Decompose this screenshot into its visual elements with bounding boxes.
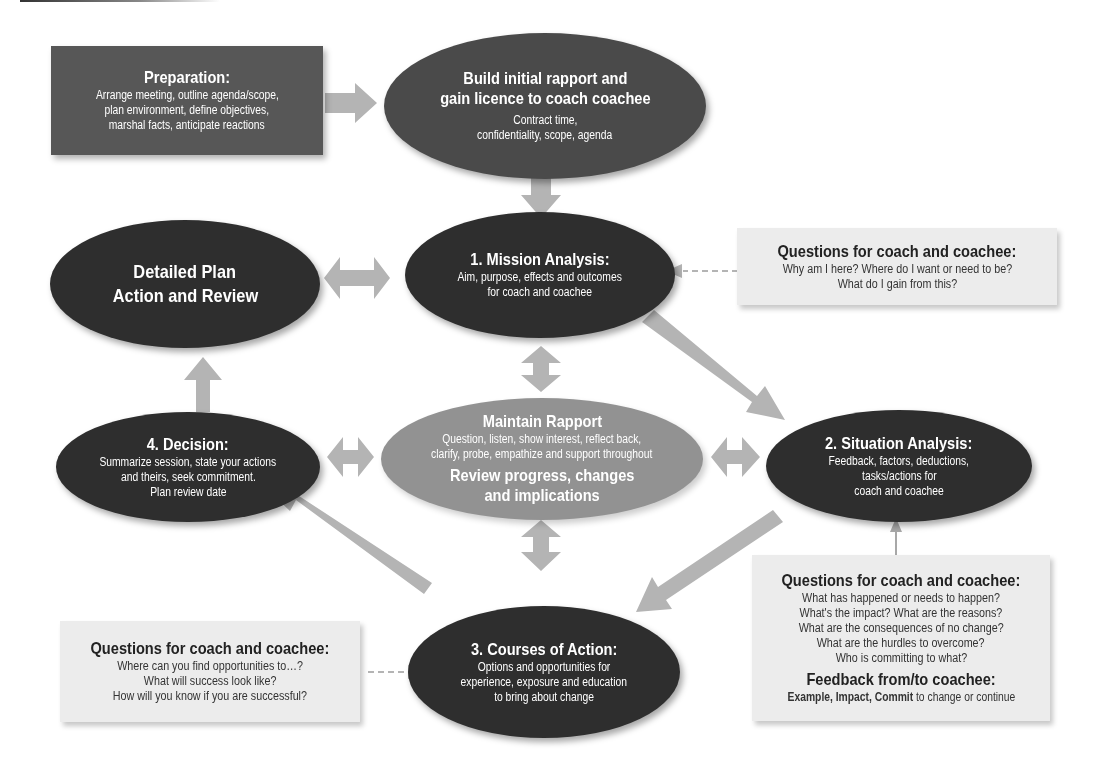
decision-line: Plan review date: [150, 485, 226, 500]
arrow-prep-to-rapport: [325, 83, 377, 123]
build-rapport-line: confidentiality, scope, agenda: [477, 128, 612, 143]
arrow-decision-center: [327, 437, 374, 477]
questions-courses-box: Questions for coach and coachee: Where c…: [60, 621, 360, 722]
courses-of-action-title: 3. Courses of Action:: [471, 640, 617, 660]
situation-analysis-line: coach and coachee: [854, 484, 944, 499]
preparation-title: Preparation:: [144, 68, 230, 88]
questions-mission-box: Questions for coach and coachee: Why am …: [737, 228, 1057, 305]
situation-analysis-line: Feedback, factors, deductions,: [829, 454, 970, 469]
courses-of-action-line: to bring about change: [494, 690, 594, 705]
decision-line: and theirs, seek commitment.: [121, 470, 256, 485]
build-rapport-node: Build initial rapport and gain licence t…: [384, 33, 706, 179]
questions-situation-line: Who is committing to what?: [835, 651, 966, 666]
decision-line: Summarize session, state your actions: [100, 455, 277, 470]
questions-mission-line: What do I gain from this?: [837, 277, 956, 292]
preparation-line: plan environment, define objectives,: [105, 103, 270, 118]
maintain-rapport-node: Maintain Rapport Question, listen, show …: [381, 398, 703, 520]
detailed-plan-title: Detailed Plan: [134, 260, 237, 284]
questions-situation-line: What has happened or needs to happen?: [802, 591, 1000, 606]
maintain-rapport-title: Maintain Rapport: [482, 412, 601, 432]
maintain-rapport-subtitle: Review progress, changes: [450, 466, 634, 486]
build-rapport-line: Contract time,: [513, 113, 577, 128]
feedback-bold: Example, Impact, Commit: [787, 690, 913, 704]
situation-analysis-node: 2. Situation Analysis: Feedback, factors…: [766, 410, 1032, 522]
mission-analysis-line: Aim, purpose, effects and outcomes: [458, 270, 622, 285]
questions-situation-title: Questions for coach and coachee:: [782, 571, 1021, 591]
maintain-rapport-subtitle: and implications: [484, 486, 599, 506]
arrow-center-courses: [521, 520, 561, 571]
decision-node: 4. Decision: Summarize session, state yo…: [56, 412, 320, 522]
feedback-line: Example, Impact, Commit to change or con…: [787, 690, 1015, 705]
arrow-decision-to-plan: [184, 357, 222, 412]
questions-courses-title: Questions for coach and coachee:: [91, 639, 330, 659]
preparation-box: Preparation: Arrange meeting, outline ag…: [51, 46, 323, 155]
questions-courses-line: What will success look like?: [144, 674, 277, 689]
decision-title: 4. Decision:: [147, 435, 229, 455]
feedback-title: Feedback from/to coachee:: [806, 670, 995, 690]
detailed-plan-node: Detailed Plan Action and Review: [50, 220, 320, 348]
questions-mission-line: Why am I here? Where do I want or need t…: [782, 262, 1011, 277]
detailed-plan-title: Action and Review: [112, 284, 257, 308]
arrow-mission-center: [521, 346, 561, 392]
questions-courses-line: Where can you find opportunities to…?: [117, 659, 303, 674]
mission-analysis-title: 1. Mission Analysis:: [470, 250, 609, 270]
mission-analysis-line: for coach and coachee: [488, 285, 592, 300]
questions-situation-line: What are the consequences of no change?: [798, 621, 1003, 636]
mission-analysis-node: 1. Mission Analysis: Aim, purpose, effec…: [405, 212, 675, 338]
situation-analysis-title: 2. Situation Analysis:: [825, 434, 972, 454]
arrow-plan-mission: [324, 257, 390, 299]
courses-of-action-node: 3. Courses of Action: Options and opport…: [408, 606, 680, 738]
questions-situation-line: What are the hurdles to overcome?: [817, 636, 985, 651]
build-rapport-title: Build initial rapport and: [463, 69, 627, 89]
courses-of-action-line: Options and opportunities for: [478, 660, 611, 675]
arrow-center-situation: [711, 437, 760, 477]
maintain-rapport-line: clarify, probe, empathize and support th…: [431, 447, 652, 462]
build-rapport-title: gain licence to coach coachee: [440, 89, 650, 109]
questions-mission-title: Questions for coach and coachee:: [778, 242, 1017, 262]
situation-analysis-line: tasks/actions for: [862, 469, 937, 484]
feedback-rest: to change or continue: [913, 690, 1015, 704]
preparation-line: marshal facts, anticipate reactions: [109, 118, 265, 133]
preparation-line: Arrange meeting, outline agenda/scope,: [95, 88, 278, 103]
maintain-rapport-line: Question, listen, show interest, reflect…: [442, 432, 641, 447]
courses-of-action-line: experience, exposure and education: [461, 675, 627, 690]
questions-courses-line: How will you know if you are successful?: [113, 689, 307, 704]
arrow-mission-to-situation: [642, 310, 785, 420]
questions-situation-box: Questions for coach and coachee: What ha…: [752, 555, 1050, 721]
questions-situation-line: What's the impact? What are the reasons?: [800, 606, 1003, 621]
